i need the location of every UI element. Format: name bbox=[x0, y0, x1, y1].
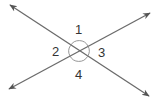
angle-4-label: 4 bbox=[75, 67, 82, 82]
angle-3-arc bbox=[88, 46, 90, 57]
angle-2-label: 2 bbox=[52, 44, 59, 59]
angle-3-label: 3 bbox=[98, 45, 105, 60]
angle-4-arc bbox=[70, 56, 88, 61]
angle-1-arc bbox=[71, 41, 89, 46]
angle-1-label: 1 bbox=[75, 22, 82, 37]
intersecting-lines-diagram: 1 2 3 4 bbox=[0, 0, 164, 103]
angle-2-arc bbox=[69, 46, 71, 57]
